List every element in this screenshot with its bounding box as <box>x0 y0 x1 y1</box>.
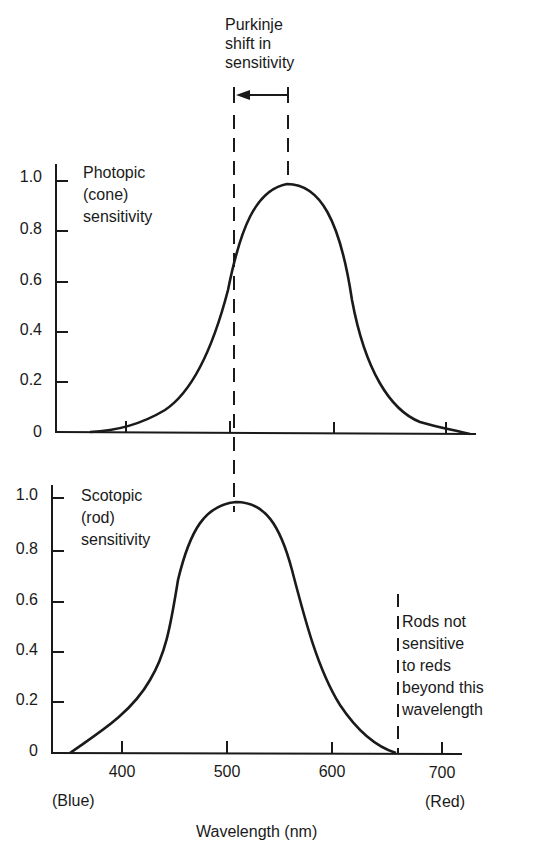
purkinje-annotation: Purkinje shift in sensitivity <box>225 15 294 72</box>
bottom-ytick-0: 0 <box>0 742 38 760</box>
bottom-ytick-0-2: 0.2 <box>0 691 38 709</box>
purkinje-line-3: sensitivity <box>225 53 294 72</box>
bottom-y-ticks <box>52 498 64 702</box>
purkinje-line-1: Purkinje <box>225 15 294 34</box>
rods-note-line-3: to reds <box>402 655 484 677</box>
top-ytick-1-0: 1.0 <box>2 168 42 186</box>
scotopic-label: Scotopic (rod) sensitivity <box>81 485 150 551</box>
purkinje-shift-marker <box>234 87 288 512</box>
purkinje-line-2: shift in <box>225 34 294 53</box>
scotopic-line-2: (rod) <box>81 507 150 529</box>
bottom-ytick-1-0: 1.0 <box>0 486 38 504</box>
blue-label: (Blue) <box>52 791 95 810</box>
photopic-line-2: (cone) <box>83 184 152 206</box>
bottom-ytick-0-8: 0.8 <box>0 540 38 558</box>
top-y-ticks <box>56 181 68 382</box>
top-ytick-0-6: 0.6 <box>2 271 42 289</box>
photopic-line-1: Photopic <box>83 162 152 184</box>
top-ytick-0-8: 0.8 <box>2 220 42 238</box>
top-ytick-0-4: 0.4 <box>2 321 42 339</box>
rods-note: Rods not sensitive to reds beyond this w… <box>402 611 484 721</box>
xtick-500: 500 <box>202 763 252 781</box>
bottom-x-axis <box>52 753 462 754</box>
xtick-400: 400 <box>97 763 147 781</box>
x-axis-title: Wavelength (nm) <box>196 822 317 841</box>
rods-note-line-5: wavelength <box>402 699 484 721</box>
chart-canvas <box>0 0 536 853</box>
top-ytick-0: 0 <box>2 423 42 441</box>
rods-note-line-1: Rods not <box>402 611 484 633</box>
bottom-ytick-0-4: 0.4 <box>0 641 38 659</box>
top-x-axis <box>56 432 476 434</box>
red-label: (Red) <box>425 792 465 811</box>
xtick-600: 600 <box>307 763 357 781</box>
top-ytick-0-2: 0.2 <box>2 371 42 389</box>
xtick-700: 700 <box>417 764 467 782</box>
shift-arrow-head <box>236 90 250 100</box>
photopic-label: Photopic (cone) sensitivity <box>83 162 152 228</box>
scotopic-line-3: sensitivity <box>81 529 150 551</box>
scotopic-line-1: Scotopic <box>81 485 150 507</box>
rods-note-line-2: sensitive <box>402 633 484 655</box>
photopic-line-3: sensitivity <box>83 206 152 228</box>
rods-note-line-4: beyond this <box>402 677 484 699</box>
bottom-ytick-0-6: 0.6 <box>0 591 38 609</box>
